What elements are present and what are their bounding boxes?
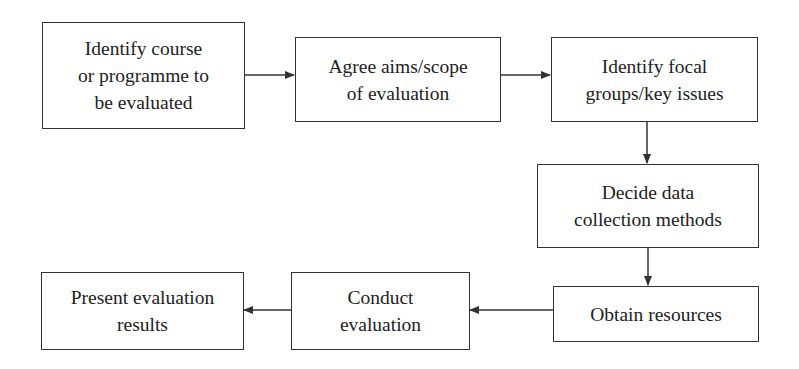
node-text-line: Identify focal xyxy=(585,53,723,80)
node-conduct-evaluation: Conduct evaluation xyxy=(291,272,470,350)
node-text-line: results xyxy=(71,311,215,338)
node-identify-focal: Identify focal groups/key issues xyxy=(551,37,758,122)
node-text-line: Present evaluation xyxy=(71,284,215,311)
node-text-line: Agree aims/scope xyxy=(328,53,467,80)
node-identify-course: Identify course or programme to be evalu… xyxy=(42,22,245,129)
node-text-line: be evaluated xyxy=(78,89,209,116)
node-text-line: of evaluation xyxy=(328,80,467,107)
node-agree-aims: Agree aims/scope of evaluation xyxy=(295,37,501,122)
node-text-line: Decide data xyxy=(574,179,722,206)
node-obtain-resources: Obtain resources xyxy=(553,286,759,342)
node-text-line: Conduct xyxy=(340,284,421,311)
node-text-line: Identify course xyxy=(78,35,209,62)
node-present-results: Present evaluation results xyxy=(41,272,244,350)
node-text-line: or programme to xyxy=(78,62,209,89)
node-decide-methods: Decide data collection methods xyxy=(537,164,759,248)
node-text-line: Obtain resources xyxy=(590,301,722,328)
node-text-line: collection methods xyxy=(574,206,722,233)
node-text-line: groups/key issues xyxy=(585,80,723,107)
node-text-line: evaluation xyxy=(340,311,421,338)
